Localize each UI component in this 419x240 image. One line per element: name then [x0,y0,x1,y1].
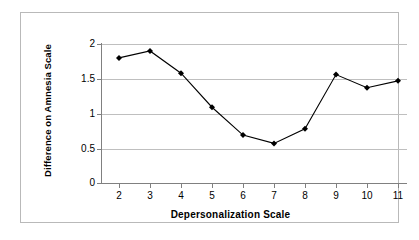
y-tick-mark-0.5 [97,149,101,150]
gridline-2.0 [102,44,407,45]
chart-frame: 2 1.5 1 0.5 0 2 3 4 5 6 7 8 9 10 11 Depe… [20,12,399,223]
plot-area [102,44,407,183]
y-tick-label-0.5: 0.5 [81,144,95,154]
x-tick-label-8: 8 [291,191,319,201]
x-axis-title: Depersonalization Scale [21,209,419,220]
y-tick-mark-0 [97,183,101,184]
gridlines [102,44,407,183]
y-tick-mark-1.0 [97,114,101,115]
x-tick-mark-3 [150,184,151,188]
y-tick-label-1.0: 1 [89,109,95,119]
gridline-1.0 [102,114,407,115]
x-tick-label-2: 2 [105,191,133,201]
x-tick-label-7: 7 [260,191,288,201]
y-tick-labels: 2 1.5 1 0.5 0 [59,13,95,213]
x-tick-mark-9 [336,184,337,188]
y-tick-label-2.0: 2 [89,39,95,49]
x-tick-mark-6 [243,184,244,188]
y-tick-mark-2.0 [97,44,101,45]
x-tick-mark-10 [367,184,368,188]
gridline-0.5 [102,149,407,150]
x-tick-label-3: 3 [136,191,164,201]
y-axis-line [101,43,102,184]
x-axis-line [101,183,407,184]
x-tick-label-4: 4 [167,191,195,201]
x-tick-label-5: 5 [198,191,226,201]
x-tick-mark-5 [212,184,213,188]
x-tick-label-10: 10 [353,191,381,201]
y-tick-mark-1.5 [97,79,101,80]
x-tick-label-9: 9 [322,191,350,201]
x-tick-mark-2 [119,184,120,188]
x-tick-mark-4 [181,184,182,188]
x-tick-mark-11 [398,184,399,188]
gridline-1.5 [102,79,407,80]
y-tick-label-0: 0 [89,178,95,188]
x-tick-label-6: 6 [229,191,257,201]
x-tick-mark-7 [274,184,275,188]
y-axis-title: Difference on Amnesia Scale [42,41,53,181]
y-tick-label-1.5: 1.5 [81,74,95,84]
x-tick-mark-8 [305,184,306,188]
chart-container: 2 1.5 1 0.5 0 2 3 4 5 6 7 8 9 10 11 Depe… [0,0,419,240]
x-tick-label-11: 11 [384,191,412,201]
